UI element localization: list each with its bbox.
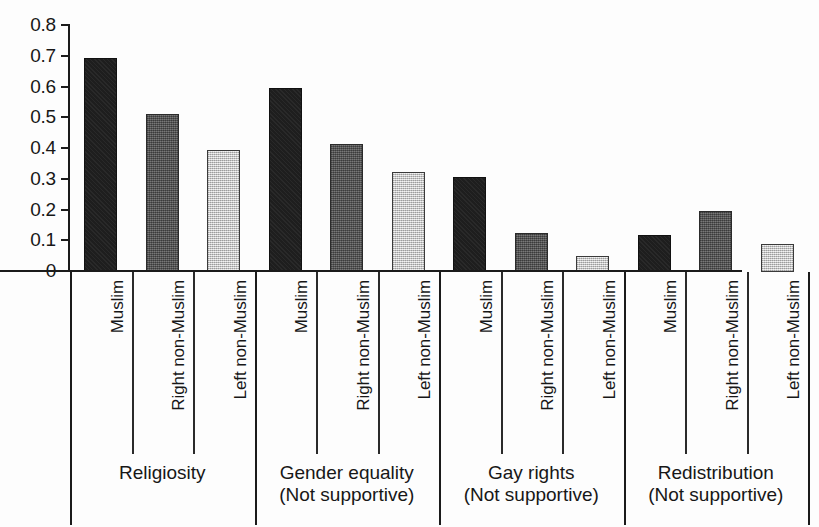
bar: [84, 58, 117, 272]
group-label-line2: (Not supportive): [464, 484, 599, 506]
y-axis-tick-label: 0.1: [30, 230, 56, 249]
group-label-line1: Religiosity: [119, 462, 206, 483]
x-axis-baseline: [0, 270, 742, 272]
y-axis-tick-label: 0.3: [30, 168, 56, 187]
category-axis-label: Right non-Muslim: [724, 280, 741, 411]
bar-separator: [685, 272, 687, 454]
category-axis-label: Muslim: [478, 280, 495, 333]
group-separator: [808, 272, 810, 525]
bar: [761, 244, 794, 272]
category-axis-label: Left non-Muslim: [232, 280, 249, 399]
bar-separator: [501, 272, 503, 454]
category-axis-label: Left non-Muslim: [416, 280, 433, 399]
y-axis-tick-label: 0.2: [30, 199, 56, 218]
y-axis-tick-mark: [61, 239, 70, 241]
bar: [638, 235, 671, 272]
group-label: Gender equality(Not supportive): [279, 462, 414, 506]
category-axis-label: Muslim: [662, 280, 679, 333]
y-axis-tick-label: 0.7: [30, 45, 56, 64]
y-axis-tick-mark: [61, 116, 70, 118]
category-axis-label: Right non-Muslim: [170, 280, 187, 411]
y-axis-tick-mark: [61, 178, 70, 180]
bar-separator: [316, 272, 318, 454]
group-label-line1: Gender equality: [280, 462, 414, 483]
bar: [207, 150, 240, 272]
category-axis-label: Muslim: [293, 280, 310, 333]
bar: [453, 177, 486, 272]
y-axis-tick-mark: [61, 86, 70, 88]
group-label-line2: (Not supportive): [648, 484, 783, 506]
bar-separator: [747, 272, 749, 454]
y-axis-tick-label: 0.8: [30, 15, 56, 34]
group-label: Redistribution(Not supportive): [648, 462, 783, 506]
category-axis-label: Left non-Muslim: [785, 280, 802, 399]
bar-chart: 0.80.70.60.50.40.30.20.10 MuslimRight no…: [0, 0, 819, 527]
group-separator: [624, 272, 626, 525]
bar: [269, 88, 302, 272]
category-axis-label: Muslim: [109, 280, 126, 333]
category-axis-label: Right non-Muslim: [355, 280, 372, 411]
group-separator: [70, 272, 72, 525]
y-axis-tick-label: 0.5: [30, 107, 56, 126]
category-axis-label: Right non-Muslim: [539, 280, 556, 411]
bar-separator: [193, 272, 195, 454]
group-label: Religiosity: [119, 462, 206, 484]
y-axis-tick-mark: [61, 209, 70, 211]
plot-area: [70, 24, 810, 272]
y-axis-tick-mark: [61, 55, 70, 57]
bar: [330, 144, 363, 272]
y-axis: 0.80.70.60.50.40.30.20.10: [0, 0, 72, 527]
group-separator: [255, 272, 257, 525]
y-axis-tick-label: 0.6: [30, 76, 56, 95]
bar-separator: [132, 272, 134, 454]
group-label: Gay rights(Not supportive): [464, 462, 599, 506]
group-separator: [439, 272, 441, 525]
group-label-line2: (Not supportive): [279, 484, 414, 506]
bar: [515, 233, 548, 272]
bar: [699, 211, 732, 272]
y-axis-tick-mark: [61, 147, 70, 149]
group-label-line1: Redistribution: [658, 462, 774, 483]
category-axis-label: Left non-Muslim: [601, 280, 618, 399]
bar-separator: [378, 272, 380, 454]
y-axis-tick-mark: [61, 24, 70, 26]
y-axis-tick-label: 0.4: [30, 138, 56, 157]
bar-separator: [562, 272, 564, 454]
bar: [392, 172, 425, 272]
bar: [146, 114, 179, 272]
group-label-line1: Gay rights: [488, 462, 575, 483]
